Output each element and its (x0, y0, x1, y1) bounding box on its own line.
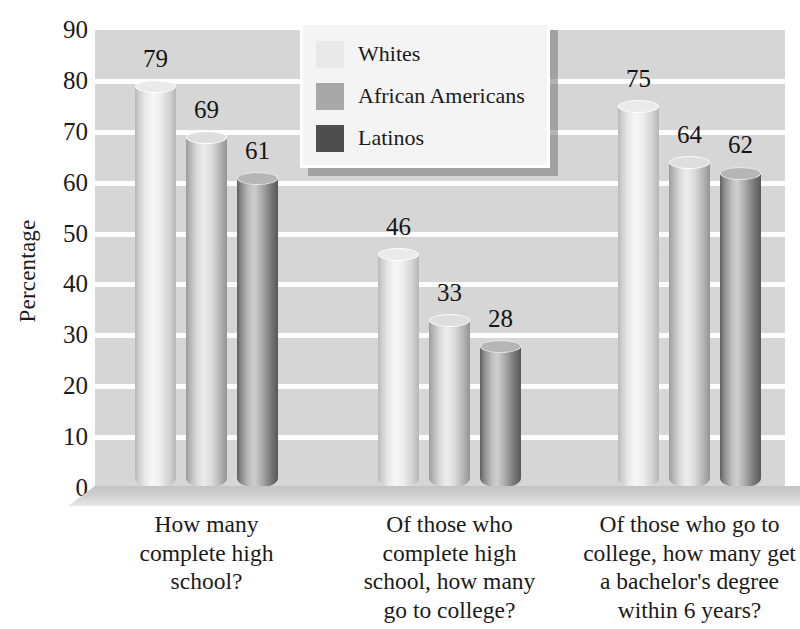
bar-body (429, 320, 470, 488)
legend-label: African Americans (358, 85, 525, 107)
bar-body (480, 346, 521, 488)
bar-1-2 (480, 346, 521, 488)
legend-swatch-icon (315, 82, 345, 111)
bar-cap (480, 340, 521, 353)
bar-value-label: 75 (604, 66, 674, 91)
bar-body (135, 86, 176, 488)
bar-2-0 (618, 106, 659, 488)
category-labels: How manycomplete highschool?Of those who… (95, 510, 795, 629)
category-label-line: school, how many (330, 567, 570, 596)
bar-2-1 (669, 162, 710, 488)
category-label-line: college, how many get (557, 539, 800, 568)
y-axis-tick-30: 30 (44, 322, 88, 347)
category-label-line: Of those who go to (557, 510, 800, 539)
category-label-2: Of those who go tocollege, how many geta… (557, 510, 800, 625)
category-label-line: within 6 years? (557, 596, 800, 625)
y-axis-tick-10: 10 (44, 424, 88, 449)
bar-cap (237, 172, 278, 185)
bar-body (237, 178, 278, 488)
bar-cap (186, 131, 227, 144)
legend-label: Latinos (358, 127, 424, 149)
bar-0-2 (237, 178, 278, 488)
bar-cap (720, 167, 761, 180)
bar-value-label: 46 (364, 214, 434, 239)
category-label-0: How manycomplete highschool? (92, 510, 322, 596)
bar-body (378, 254, 419, 488)
category-label-line: school? (92, 567, 322, 596)
bar-0-0 (135, 86, 176, 488)
legend-swatch-icon (315, 124, 345, 153)
legend-entry-1[interactable]: African Americans (315, 75, 547, 117)
y-axis-tick-70: 70 (44, 119, 88, 144)
bar-value-label: 61 (223, 138, 293, 163)
chart-legend: WhitesAfrican AmericansLatinos (300, 22, 550, 168)
y-axis-tick-40: 40 (44, 271, 88, 296)
bar-value-label: 33 (415, 280, 485, 305)
bar-body (720, 173, 761, 489)
category-label-line: Of those who (330, 510, 570, 539)
y-axis-tick-60: 60 (44, 170, 88, 195)
bar-body (618, 106, 659, 488)
y-axis-tick-50: 50 (44, 221, 88, 246)
bar-0-1 (186, 137, 227, 488)
category-label-line: complete high (92, 539, 322, 568)
bar-cap (378, 248, 419, 261)
category-label-line: a bachelor's degree (557, 567, 800, 596)
chart-floor-top (68, 486, 800, 506)
category-label-line: go to college? (330, 596, 570, 625)
bar-chart: Percentage 9080706050403020100 796961463… (0, 0, 800, 629)
category-label-line: complete high (330, 539, 570, 568)
y-axis-tick-80: 80 (44, 68, 88, 93)
bar-2-2 (720, 173, 761, 489)
chart-floor (68, 486, 800, 512)
category-label-line: How many (92, 510, 322, 539)
legend-entry-2[interactable]: Latinos (315, 117, 547, 159)
bar-value-label: 28 (466, 306, 536, 331)
bar-body (186, 137, 227, 488)
legend-entry-0[interactable]: Whites (315, 33, 547, 75)
bar-1-0 (378, 254, 419, 488)
bar-cap (429, 314, 470, 327)
bar-value-label: 62 (706, 132, 776, 157)
bar-cap (135, 80, 176, 93)
bar-value-label: 69 (172, 97, 242, 122)
legend-label: Whites (358, 43, 420, 65)
category-label-1: Of those whocomplete highschool, how man… (330, 510, 570, 625)
y-axis-tick-90: 90 (44, 17, 88, 42)
bar-value-label: 79 (121, 46, 191, 71)
legend-swatch-icon (315, 40, 345, 69)
y-axis-ticks: 9080706050403020100 (38, 0, 88, 629)
bar-body (669, 162, 710, 488)
y-axis-tick-20: 20 (44, 373, 88, 398)
bar-1-1 (429, 320, 470, 488)
